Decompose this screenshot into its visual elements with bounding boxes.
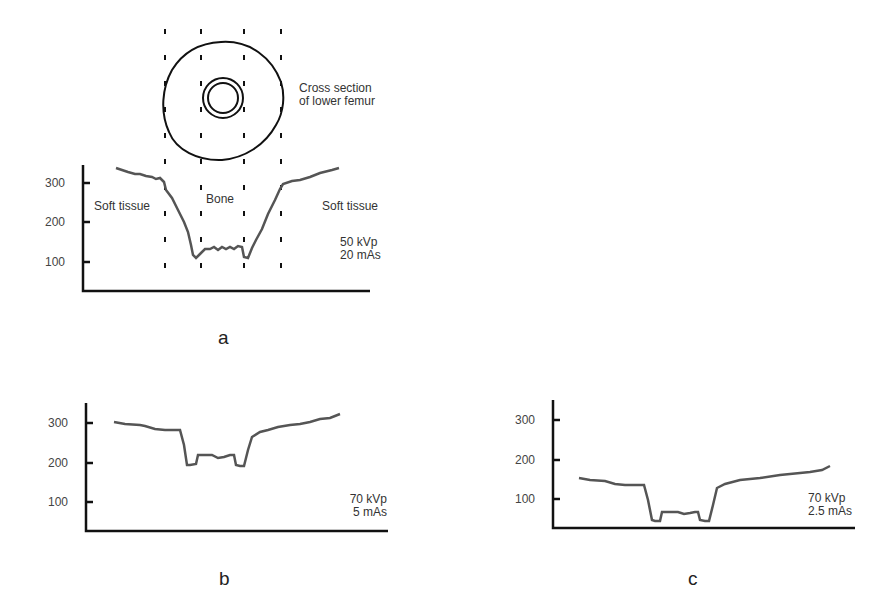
panel-b-ytick-300: 300 [48, 416, 68, 430]
panel-a-label: a [218, 327, 229, 349]
panel-a-density-trace [116, 168, 339, 258]
panel-a-ytick-100: 100 [45, 255, 65, 269]
femur-cross-section [163, 42, 283, 160]
panel-a-ytick-300: 300 [45, 176, 65, 190]
panel-a-region-right: Soft tissue [322, 200, 378, 213]
panel-c-ytick-100: 100 [515, 492, 535, 506]
panel-c-mas: 2.5 mAs [808, 505, 852, 518]
panel-a-region-left: Soft tissue [94, 200, 150, 213]
panel-c-technique: 70 kVp 2.5 mAs [808, 492, 852, 518]
panel-a-region-center: Bone [206, 193, 234, 206]
cross-section-label-line2: of lower femur [299, 95, 375, 108]
panel-c-label: c [688, 568, 698, 590]
panel-c-density-trace [579, 466, 830, 521]
panel-a-axes [83, 165, 370, 291]
panel-a-ytick-200: 200 [45, 215, 65, 229]
panel-c-ytick-300: 300 [515, 413, 535, 427]
panel-a-mas: 20 mAs [340, 249, 381, 262]
panel-b-mas: 5 mAs [341, 506, 387, 519]
panel-c-ytick-200: 200 [515, 453, 535, 467]
panel-b-technique: 70 kVp 5 mAs [341, 493, 387, 519]
bone-boundary-guides [165, 29, 281, 275]
panel-b-density-trace [114, 414, 340, 466]
panel-b-label: b [219, 568, 230, 590]
panel-a-technique: 50 kVp 20 mAs [340, 236, 381, 262]
panel-b-ytick-100: 100 [48, 495, 68, 509]
figure-graphics [0, 0, 892, 611]
cross-section-label: Cross section of lower femur [299, 82, 375, 108]
panel-b-ytick-200: 200 [48, 456, 68, 470]
